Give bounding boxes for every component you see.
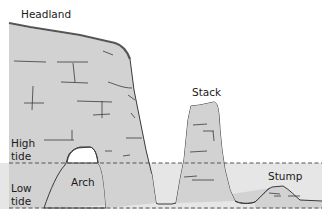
low-tide-label-line1: Low [11, 182, 32, 195]
high-tide-label-line2: tide [11, 150, 31, 163]
stack-label: Stack [192, 86, 221, 99]
low-tide-label-line2: tide [11, 195, 31, 208]
arch-label: Arch [71, 176, 95, 189]
headland-label: Headland [21, 8, 71, 21]
stack-fill [176, 102, 235, 203]
arch-right-water [98, 163, 156, 208]
high-tide-label-line1: High [11, 137, 35, 150]
stump-label: Stump [268, 170, 302, 183]
coastal-landforms-diagram [0, 0, 330, 220]
